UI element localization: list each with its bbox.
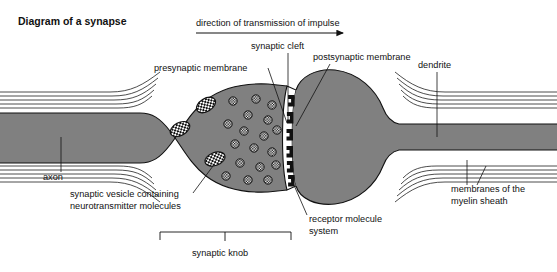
neurotransmitter-molecule [268,101,276,109]
neurotransmitter-molecule [244,111,252,119]
neurotransmitter-molecule [244,176,252,184]
myelin-label-line1: membranes of the [451,184,525,194]
axon-label: axon [43,172,63,182]
synaptic-knob-bracket [160,232,291,240]
synaptic-cleft-label: synaptic cleft [251,41,305,51]
direction-label: direction of transmission of impulse [196,18,340,28]
myelin-label-line2: myelin sheath [451,196,508,206]
impulse-direction-annotation: direction of transmission of impulse [196,18,343,33]
label-synaptic-vesicle: synaptic vesicle containing neurotransmi… [70,166,213,211]
dendrite-label: dendrite [418,60,451,70]
neurotransmitter-molecule [229,97,237,105]
neurotransmitter-molecule [250,144,258,152]
neurotransmitter-molecule [264,176,272,184]
neurotransmitter-molecule [224,120,232,128]
receptor-label-line1: receptor molecule [309,214,382,224]
neurotransmitter-molecule [252,95,260,103]
synapse-diagram-page: Diagram of a synapse direction of transm… [0,0,557,272]
neurotransmitter-molecule [273,126,281,134]
vesicle-label-line1: synaptic vesicle containing [70,189,179,199]
synaptic-knob-label: synaptic knob [192,248,248,258]
receptor-label-line2: system [309,226,338,236]
synaptic-knob-bracket-group: synaptic knob [160,232,291,258]
neurotransmitter-molecule [268,148,276,156]
neurotransmitter-molecule [222,172,230,180]
page-title: Diagram of a synapse [18,15,127,27]
vesicle-label-line2: neurotransmitter molecules [70,201,181,211]
label-myelin-sheath: membranes of the myelin sheath [451,160,525,206]
synapse-figure: Diagram of a synapse direction of transm… [0,0,557,272]
neurotransmitter-molecule [236,159,244,167]
presynaptic-membrane-label: presynaptic membrane [154,63,247,73]
neurotransmitter-molecule [231,140,239,148]
neurotransmitter-molecule [240,127,248,135]
neurotransmitter-molecule [272,161,280,169]
neurotransmitter-molecule [256,163,264,171]
neurotransmitter-molecule [260,132,268,140]
neurotransmitter-molecule [264,116,272,124]
postsynaptic-membrane-label: postsynaptic membrane [313,52,411,62]
